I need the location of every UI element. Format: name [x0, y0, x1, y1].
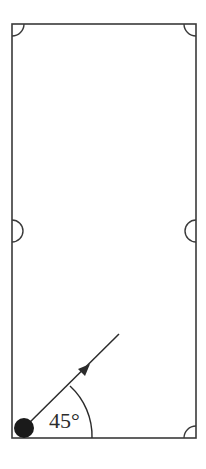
angle-label: 45°	[49, 408, 80, 433]
arrow-icon	[78, 364, 90, 376]
top-right-pocket	[184, 24, 196, 36]
table-border	[12, 24, 196, 438]
middle-left-pocket	[12, 220, 23, 242]
top-left-pocket	[12, 24, 24, 36]
ball	[14, 418, 34, 438]
billiard-table-diagram: 45°	[0, 0, 206, 469]
bottom-right-pocket	[184, 426, 196, 438]
middle-right-pocket	[185, 220, 196, 242]
